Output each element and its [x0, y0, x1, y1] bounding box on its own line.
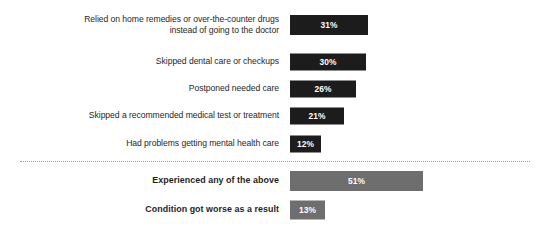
chart-plot-area: Relied on home remedies or over-the-coun… — [0, 0, 553, 228]
bar-track: 51% — [285, 168, 553, 194]
bar-value-label: 51% — [348, 177, 365, 185]
bar-track: 12% — [285, 132, 553, 156]
bar-value-label: 26% — [314, 85, 331, 93]
bar-label: Skipped a recommended medical test or tr… — [0, 110, 285, 122]
bar-track: 13% — [285, 197, 553, 223]
bar-track: 26% — [285, 77, 553, 101]
bar-track: 30% — [285, 50, 553, 74]
bar-row: Had problems getting mental health care … — [0, 132, 553, 156]
bar-segment: 12% — [290, 136, 321, 153]
bar-label: Condition got worse as a result — [0, 204, 285, 216]
bar-value-label: 12% — [297, 140, 314, 148]
bar-label: Relied on home remedies or over-the-coun… — [0, 14, 285, 37]
bar-chart: Relied on home remedies or over-the-coun… — [0, 0, 553, 228]
bar-row: Postponed needed care 26% — [0, 77, 553, 101]
bar-segment: 51% — [290, 171, 423, 191]
bar-label: Experienced any of the above — [0, 175, 285, 187]
bar-row: Condition got worse as a result 13% — [0, 197, 553, 223]
bar-segment: 31% — [290, 15, 368, 35]
bar-value-label: 31% — [320, 21, 337, 29]
bar-value-label: 21% — [308, 112, 325, 120]
bar-label: Had problems getting mental health care — [0, 138, 285, 150]
bar-track: 31% — [285, 8, 553, 42]
bar-track: 21% — [285, 104, 553, 128]
bar-row: Experienced any of the above 51% — [0, 168, 553, 194]
bar-label: Skipped dental care or checkups — [0, 56, 285, 68]
bar-row: Relied on home remedies or over-the-coun… — [0, 8, 553, 42]
section-divider — [20, 161, 530, 162]
bar-label: Postponed needed care — [0, 83, 285, 95]
bar-segment: 13% — [290, 201, 325, 220]
bar-segment: 30% — [290, 54, 366, 71]
bar-segment: 21% — [290, 108, 344, 125]
bar-row: Skipped a recommended medical test or tr… — [0, 104, 553, 128]
bar-segment: 26% — [290, 81, 356, 98]
bar-value-label: 30% — [319, 58, 336, 66]
bar-value-label: 13% — [299, 206, 316, 214]
bar-row: Skipped dental care or checkups 30% — [0, 50, 553, 74]
